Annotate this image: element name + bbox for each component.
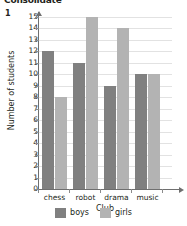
bar-chart: 1514131211109876543210 Number of student… [0,12,187,198]
bar-music-boys [135,74,147,189]
chart-legend: boysgirls [0,208,187,218]
bar-drama-boys [104,86,116,189]
x-tick-mark [131,189,132,193]
legend-swatch-boys [55,208,66,218]
x-category-label-drama: drama [100,194,133,202]
x-tick-mark [38,189,39,193]
worksheet-page: Consolidate 1 1514131211109876543210 Num… [0,0,187,226]
x-category-label-robot: robot [69,194,102,202]
bar-chess-boys [42,51,54,189]
x-category-label-chess: chess [38,194,71,202]
bar-music-girls [148,74,160,189]
worksheet-title: Consolidate [4,0,62,5]
bar-robot-boys [73,63,85,189]
x-tick-mark [162,189,163,193]
bar-robot-girls [86,17,98,189]
legend-item-boys: boys [55,208,89,218]
legend-item-girls: girls [100,208,132,218]
x-axis-arrow [179,187,184,193]
x-tick-mark [69,189,70,193]
x-axis-line [38,189,180,190]
bars-layer [38,17,180,189]
legend-swatch-girls [100,208,111,218]
legend-label-boys: boys [70,209,89,217]
x-category-label-music: music [131,194,164,202]
bar-chess-girls [55,97,67,189]
x-tick-mark [100,189,101,193]
y-axis-title: Number of students [7,36,16,146]
bar-drama-girls [117,28,129,189]
legend-label-girls: girls [115,209,132,217]
